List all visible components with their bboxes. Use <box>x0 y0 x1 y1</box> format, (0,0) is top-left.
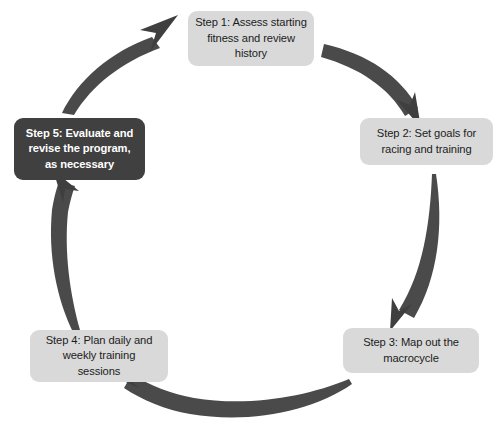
step-5-label: Step 5: Evaluate and revise the program,… <box>20 126 139 173</box>
arrow-step1-to-step2 <box>321 44 421 128</box>
arrow-step2-to-step3 <box>390 174 439 331</box>
arrow-step4-to-step5 <box>51 170 80 334</box>
step-1-label: Step 1: Assess starting fitness and revi… <box>194 15 308 62</box>
step-4-box[interactable]: Step 4: Plan daily and weekly training s… <box>30 330 168 382</box>
cycle-diagram: Step 1: Assess starting fitness and revi… <box>0 0 496 445</box>
step-3-box[interactable]: Step 3: Map out the macrocycle <box>343 328 479 373</box>
step-1-box[interactable]: Step 1: Assess starting fitness and revi… <box>188 11 314 66</box>
arrow-step5-to-step1 <box>62 15 178 115</box>
step-4-label: Step 4: Plan daily and weekly training s… <box>36 333 162 380</box>
step-5-box[interactable]: Step 5: Evaluate and revise the program,… <box>14 118 145 180</box>
step-2-box[interactable]: Step 2: Set goals for racing and trainin… <box>360 118 493 165</box>
step-3-label: Step 3: Map out the macrocycle <box>349 335 473 366</box>
step-2-label: Step 2: Set goals for racing and trainin… <box>366 126 487 157</box>
